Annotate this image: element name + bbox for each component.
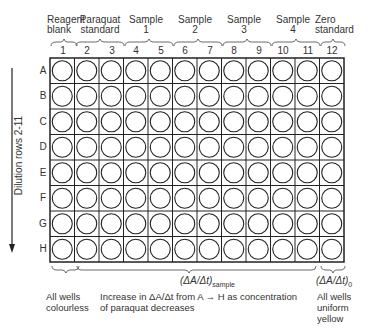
well-F10 [273,188,293,208]
well-C2 [77,112,97,132]
well-H4 [126,239,146,259]
well-B5 [150,86,170,106]
well-D2 [77,137,97,157]
note-line: All wells [317,291,351,302]
note-samples: Increase in ΔA/Δt from A → H as concentr… [100,291,297,313]
well-F2 [77,188,97,208]
well-B12 [322,86,342,106]
well-H2 [77,239,97,259]
well-B8 [224,86,244,106]
well-C6 [175,112,195,132]
well-G11 [297,214,317,234]
rate-subscript: sample [212,281,235,288]
well-E9 [248,163,268,183]
well-A4 [126,61,146,81]
well-A12 [322,61,342,81]
note-reagent-blank: All wells colourless [46,291,89,313]
note-line: yellow [317,313,351,324]
well-A5 [150,61,170,81]
well-F5 [150,188,170,208]
well-E7 [199,163,219,183]
well-A3 [101,61,121,81]
note-line: colourless [46,302,89,313]
well-G5 [150,214,170,234]
well-E12 [322,163,342,183]
note-zero-standard: All wells uniform yellow [317,291,351,324]
well-H6 [175,239,195,259]
well-H1 [52,239,72,259]
well-D5 [150,137,170,157]
well-C1 [52,112,72,132]
well-H7 [199,239,219,259]
note-line: Increase in ΔA/Δt from A → H as concentr… [100,291,297,302]
well-E2 [77,163,97,183]
well-G4 [126,214,146,234]
well-H10 [273,239,293,259]
well-B11 [297,86,317,106]
well-B3 [101,86,121,106]
well-E3 [101,163,121,183]
well-F4 [126,188,146,208]
well-E8 [224,163,244,183]
well-A11 [297,61,317,81]
well-A9 [248,61,268,81]
well-E11 [297,163,317,183]
note-line: of paraquat decreases [100,302,297,313]
well-H3 [101,239,121,259]
note-line: uniform [317,302,351,313]
well-B9 [248,86,268,106]
well-B1 [52,86,72,106]
well-F3 [101,188,121,208]
well-H9 [248,239,268,259]
well-C12 [322,112,342,132]
well-H5 [150,239,170,259]
well-G8 [224,214,244,234]
well-C7 [199,112,219,132]
well-A6 [175,61,195,81]
well-C5 [150,112,170,132]
well-B2 [77,86,97,106]
well-D3 [101,137,121,157]
well-E6 [175,163,195,183]
well-B7 [199,86,219,106]
rate-text: (ΔA/Δt) [316,275,348,286]
well-D11 [297,137,317,157]
well-H11 [297,239,317,259]
well-G7 [199,214,219,234]
well-D10 [273,137,293,157]
well-D12 [322,137,342,157]
well-C11 [297,112,317,132]
well-G1 [52,214,72,234]
well-F1 [52,188,72,208]
well-D7 [199,137,219,157]
well-E5 [150,163,170,183]
well-E10 [273,163,293,183]
note-line: All wells [46,291,89,302]
well-C10 [273,112,293,132]
well-C3 [101,112,121,132]
well-E4 [126,163,146,183]
well-F8 [224,188,244,208]
well-H12 [322,239,342,259]
well-B6 [175,86,195,106]
rate-text: (ΔA/Δt) [180,275,212,286]
well-G12 [322,214,342,234]
well-G3 [101,214,121,234]
well-G9 [248,214,268,234]
well-C9 [248,112,268,132]
well-F7 [199,188,219,208]
well-G6 [175,214,195,234]
well-B10 [273,86,293,106]
well-C4 [126,112,146,132]
rate-subscript: 0 [348,281,352,288]
zero-rate-label: (ΔA/Δt)0 [316,275,352,288]
well-A8 [224,61,244,81]
well-D6 [175,137,195,157]
well-E1 [52,163,72,183]
well-G10 [273,214,293,234]
well-F9 [248,188,268,208]
well-F6 [175,188,195,208]
well-B4 [126,86,146,106]
well-A1 [52,61,72,81]
well-D1 [52,137,72,157]
